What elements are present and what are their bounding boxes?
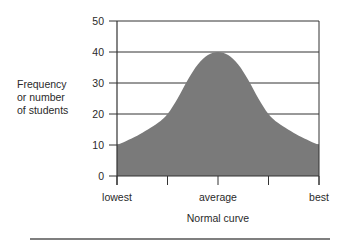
y-tick-label: 50 <box>92 15 104 27</box>
x-axis-label: Normal curve <box>187 212 250 224</box>
normal-curve-chart: 01020304050 lowestaveragebest Frequencyo… <box>0 0 346 241</box>
x-tick-labels: lowestaveragebest <box>102 191 329 203</box>
y-tick-label: 30 <box>92 77 104 89</box>
y-tick-label: 40 <box>92 46 104 58</box>
y-tick-label: 20 <box>92 108 104 120</box>
y-axis-label-line: of students <box>17 104 68 116</box>
y-tick-label: 10 <box>92 139 104 151</box>
y-tick-labels: 01020304050 <box>92 15 104 182</box>
y-axis-label-line: Frequency <box>17 78 67 90</box>
x-tick-label: lowest <box>102 191 132 203</box>
x-tick-label: best <box>309 191 329 203</box>
y-axis-label: Frequencyor numberof students <box>17 78 68 116</box>
x-tick-label: average <box>199 191 237 203</box>
y-tick-label: 0 <box>98 170 104 182</box>
y-axis-label-line: or number <box>17 91 65 103</box>
